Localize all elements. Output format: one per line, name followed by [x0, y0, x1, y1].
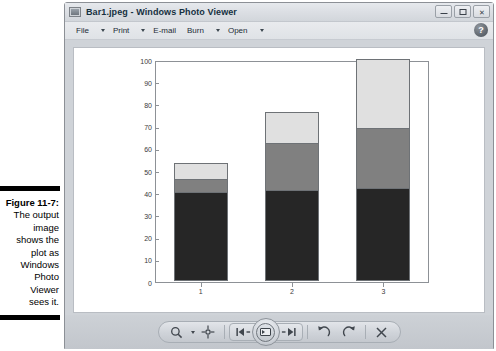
chevron-down-icon-zoom[interactable] — [191, 331, 195, 334]
toolbar-divider-3 — [365, 325, 366, 339]
y-axis-tick-mark — [155, 172, 159, 173]
toolbar-divider-2 — [307, 325, 308, 339]
y-axis-tick-mark — [155, 261, 159, 262]
bar-segment — [356, 188, 410, 281]
caption-line-5: Photo — [34, 271, 59, 282]
stacked-bar-chart: 0102030405060708090100123 — [74, 48, 484, 312]
bar-segment — [265, 143, 319, 190]
menu-item-print[interactable]: Print — [110, 25, 132, 36]
navigation-group — [229, 323, 303, 341]
viewer-body: 0102030405060708090100123 — [65, 40, 493, 315]
y-axis-tick-mark — [155, 194, 159, 195]
chevron-down-icon-burn[interactable] — [216, 29, 220, 32]
y-axis-tick-mark — [155, 128, 159, 129]
play-slideshow-icon — [260, 328, 271, 336]
caption-line-6: Viewer — [30, 284, 59, 295]
x-axis-tick-label: 3 — [381, 288, 385, 295]
bar-segment — [174, 179, 228, 192]
menu-item-email[interactable]: E-mail — [150, 25, 179, 36]
menu-item-print-label: Print — [113, 26, 129, 35]
menu-item-open[interactable]: Open — [225, 25, 251, 36]
y-axis-tick-mark — [155, 216, 159, 217]
fit-to-window-icon[interactable] — [196, 323, 220, 341]
chevron-down-icon-open[interactable] — [260, 29, 264, 32]
y-axis-tick-label: 60 — [144, 146, 155, 153]
y-axis-tick-label: 10 — [144, 257, 155, 264]
y-axis-tick-label: 70 — [144, 124, 155, 131]
minimize-button[interactable] — [435, 5, 452, 18]
caption-rule-top — [0, 186, 60, 191]
figure-caption-block: Figure 11-7: The output image shows the … — [0, 186, 62, 320]
y-axis-tick-label: 90 — [144, 79, 155, 86]
caption-line-2: shows the — [16, 234, 59, 245]
menu-item-burn-label: Burn — [187, 26, 204, 35]
chevron-down-icon-file[interactable] — [101, 29, 105, 32]
window-title: Bar1.jpeg - Windows Photo Viewer — [86, 7, 237, 17]
bar-stack — [356, 59, 410, 281]
x-axis-tick-mark — [292, 283, 293, 287]
caption-line-7: sees it. — [29, 296, 59, 307]
y-axis-tick-mark — [155, 61, 159, 62]
rotate-counterclockwise-icon[interactable] — [312, 323, 336, 341]
play-slideshow-button[interactable] — [252, 318, 280, 346]
menu-bar: File Print E-mail Burn Open ? — [65, 22, 493, 40]
bar-segment — [265, 112, 319, 143]
title-bar[interactable]: Bar1.jpeg - Windows Photo Viewer ✕ — [65, 3, 493, 22]
caption-line-0: The output — [14, 209, 59, 220]
y-axis-tick-label: 40 — [144, 190, 155, 197]
x-axis-tick-label: 2 — [290, 288, 294, 295]
y-axis-tick-mark — [155, 239, 159, 240]
bar-stack — [174, 163, 228, 281]
menu-item-open-label: Open — [228, 26, 248, 35]
x-axis-tick-mark — [201, 283, 202, 287]
menu-item-file[interactable]: File — [73, 25, 92, 36]
caption-line-3: plot as — [31, 247, 59, 258]
chevron-down-icon-print[interactable] — [141, 29, 145, 32]
bar-segment — [174, 192, 228, 281]
help-button[interactable]: ? — [474, 23, 488, 37]
toolbar-divider-1 — [224, 325, 225, 339]
caption-rule-bottom — [0, 315, 60, 320]
y-axis-tick-mark — [155, 150, 159, 151]
bar-segment — [356, 59, 410, 128]
y-axis-tick-mark — [155, 83, 159, 84]
zoom-magnifier-icon[interactable] — [165, 323, 189, 341]
image-canvas[interactable]: 0102030405060708090100123 — [73, 47, 485, 313]
next-image-icon[interactable] — [277, 323, 301, 341]
y-axis-tick-label: 30 — [144, 212, 155, 219]
x-axis-tick-mark — [383, 283, 384, 287]
bottom-toolbar — [65, 315, 493, 349]
maximize-button[interactable] — [454, 5, 471, 18]
x-axis-tick-label: 1 — [199, 288, 203, 295]
delete-button[interactable] — [370, 323, 394, 341]
y-axis-tick-mark — [155, 105, 159, 106]
figure-label: Figure 11-7: — [0, 197, 59, 209]
bar-stack — [265, 112, 319, 281]
y-axis-tick-label: 0 — [148, 279, 155, 286]
y-axis-tick-label: 80 — [144, 101, 155, 108]
menu-item-burn[interactable]: Burn — [184, 25, 207, 36]
bar-segment — [356, 128, 410, 188]
bar-segment — [265, 190, 319, 281]
window-controls: ✕ — [435, 5, 490, 18]
y-axis-tick-label: 20 — [144, 235, 155, 242]
toolbar-pill — [158, 321, 401, 343]
photo-viewer-window: Bar1.jpeg - Windows Photo Viewer ✕ File … — [64, 2, 494, 349]
previous-image-icon[interactable] — [231, 323, 255, 341]
close-icon: ✕ — [479, 8, 485, 15]
menu-item-email-label: E-mail — [153, 26, 176, 35]
y-axis-tick-label: 100 — [140, 57, 155, 64]
close-button[interactable]: ✕ — [473, 5, 490, 18]
rotate-clockwise-icon[interactable] — [337, 323, 361, 341]
y-axis-tick-label: 50 — [144, 168, 155, 175]
caption-line-4: Windows — [20, 259, 59, 270]
menu-item-file-label: File — [76, 26, 89, 35]
bar-segment — [174, 163, 228, 179]
figure-caption-text: Figure 11-7: The output image shows the … — [0, 197, 62, 309]
photo-viewer-icon — [69, 6, 82, 18]
figure-page: Figure 11-7: The output image shows the … — [0, 0, 496, 351]
caption-line-1: image — [33, 222, 59, 233]
